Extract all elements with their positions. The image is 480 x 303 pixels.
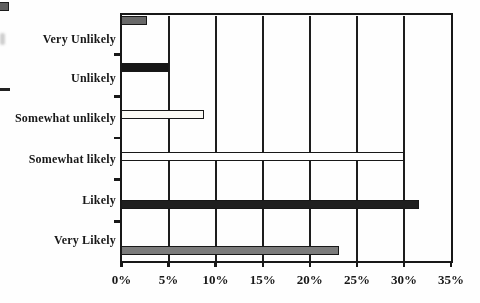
x-axis-tick-mark [403, 262, 406, 267]
adjacent-bar-fragment-middle [0, 88, 10, 91]
x-axis-tick-label: 20% [285, 272, 335, 288]
gridline [356, 16, 358, 261]
category-label-very-likely: Very Likely [1, 232, 116, 248]
x-axis-tick-mark [214, 262, 217, 267]
y-axis-tick-mark [114, 53, 120, 56]
x-axis-tick-label: 35% [426, 272, 476, 288]
category-label-somewhat-likely: Somewhat likely [1, 151, 116, 167]
gridline [215, 16, 217, 261]
x-axis-tick-label: 15% [238, 272, 288, 288]
adjacent-bar-fragment-top [0, 2, 9, 11]
bar-likely [121, 200, 419, 209]
x-axis-tick-mark [167, 262, 170, 267]
x-axis-tick-mark [120, 262, 123, 267]
x-axis-tick-mark [450, 262, 453, 267]
bar-somewhat-unlikely [121, 110, 204, 119]
gridline [262, 16, 264, 261]
x-axis-tick-label: 25% [332, 272, 382, 288]
x-axis-tick-label: 5% [144, 272, 194, 288]
category-label-very-unlikely: Very Unlikely [1, 31, 116, 47]
gridline [403, 16, 405, 261]
x-axis-tick-mark [262, 262, 265, 267]
x-axis-tick-mark [356, 262, 359, 267]
x-axis-tick-mark [309, 262, 312, 267]
bar-somewhat-likely [121, 152, 404, 161]
category-label-likely: Likely [1, 192, 116, 208]
x-axis-tick-label: 10% [191, 272, 241, 288]
category-label-somewhat-unlikely: Somewhat unlikely [1, 110, 116, 126]
y-axis-tick-mark [114, 95, 120, 98]
y-axis-tick-mark [114, 178, 120, 181]
gridline [309, 16, 311, 261]
y-axis-tick-mark [114, 220, 120, 223]
bar-unlikely [121, 63, 169, 72]
category-label-unlikely: Unlikely [1, 70, 116, 86]
x-axis-tick-label: 0% [97, 272, 147, 288]
x-axis-tick-label: 30% [379, 272, 429, 288]
bar-very-unlikely [121, 16, 147, 25]
scanned-chart-page: Very UnlikelyUnlikelySomewhat unlikelySo… [0, 0, 480, 303]
gridline [168, 16, 170, 261]
y-axis-tick-mark [114, 137, 120, 140]
bar-very-likely [121, 246, 339, 255]
